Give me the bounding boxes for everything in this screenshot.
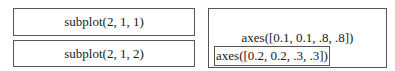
inner-axes-label: axes([0.2, 0.2, .3, .3]) (216, 48, 328, 64)
subplot-bottom-label: subplot(2, 1, 2) (64, 46, 143, 62)
subplot-top-label: subplot(2, 1, 1) (64, 14, 143, 30)
outer-axes-label: axes([0.1, 0.1, .8, .8]) (209, 30, 386, 46)
subplot-bottom-box: subplot(2, 1, 2) (13, 40, 195, 67)
inner-axes-box: axes([0.2, 0.2, .3, .3]) (214, 46, 330, 66)
subplot-top-box: subplot(2, 1, 1) (13, 8, 195, 36)
